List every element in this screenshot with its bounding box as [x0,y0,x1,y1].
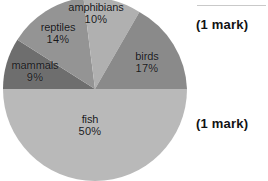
mark-allocation-first: (1 mark) [196,17,248,32]
pie-chart-screenshot: amphibians 10% reptiles 14% mammals 9% b… [0,0,268,181]
pie-label-birds-name: birds [135,50,158,62]
pie-label-mammals-percent: 9% [2,71,68,83]
pie-label-reptiles: reptiles 14% [27,21,89,46]
pie-label-fish: fish 50% [65,113,115,138]
pie-label-amphibians-name: amphibians [68,1,123,13]
pie-label-reptiles-name: reptiles [41,21,76,33]
pie-label-birds-percent: 17% [123,62,171,74]
pie-label-mammals: mammals 9% [2,59,68,84]
pie-label-reptiles-percent: 14% [27,33,89,45]
pie-chart: amphibians 10% reptiles 14% mammals 9% b… [0,0,192,181]
pie-label-mammals-name: mammals [12,59,59,71]
horizontal-rule [197,5,266,6]
pie-label-fish-name: fish [82,113,99,125]
pie-label-birds: birds 17% [123,50,171,75]
pie-label-fish-percent: 50% [65,125,115,137]
mark-allocation-second: (1 mark) [196,116,248,131]
